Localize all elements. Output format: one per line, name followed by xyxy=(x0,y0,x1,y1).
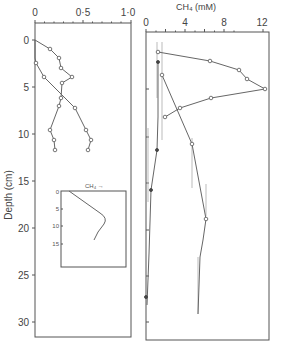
left-x-tick-label: 0·5 xyxy=(76,7,91,18)
left-series-b-line xyxy=(35,40,91,150)
y-tick-label: 5 xyxy=(23,82,29,93)
inset-y-tick-label: 5 xyxy=(56,206,60,212)
right-series-upper-markers xyxy=(156,50,267,119)
right-x-tick-label: 12 xyxy=(256,17,268,28)
y-tick-label: 30 xyxy=(18,317,30,328)
right-x-tick-label: 0 xyxy=(143,17,149,28)
y-tick-label: 0 xyxy=(23,35,29,46)
left-series-a-line xyxy=(35,40,72,150)
inset-y-tick-label: 10 xyxy=(52,223,59,229)
right-series-lower-line xyxy=(162,75,206,314)
inset-schematic: CH₄ → 0 5 10 15 xyxy=(52,183,126,267)
right-x-tick-label: 8 xyxy=(221,17,227,28)
ch4-depth-profile-chart: 0 0·5 1·0 0 5 10 15 20 25 30 Depth (cm) xyxy=(0,0,282,347)
y-tick-label: 20 xyxy=(18,223,30,234)
y-axis-label: Depth (cm) xyxy=(3,170,14,219)
y-tick-label: 25 xyxy=(18,270,30,281)
left-panel-frame xyxy=(35,23,131,337)
error-bars xyxy=(148,42,206,314)
inset-y-tick-label: 15 xyxy=(52,241,59,247)
right-panel-title: CH₄ (mM) xyxy=(176,2,216,12)
inset-curve xyxy=(69,191,105,240)
y-tick-label: 15 xyxy=(18,176,30,187)
left-x-tick-label: 1·0 xyxy=(121,7,136,18)
inset-frame xyxy=(61,191,126,267)
inset-ch4-label: CH₄ → xyxy=(85,183,104,189)
y-tick-label: 10 xyxy=(18,129,30,140)
inset-y-tick-label: 0 xyxy=(56,189,60,195)
right-x-tick-label: 4 xyxy=(182,17,188,28)
left-x-tick-label: 0 xyxy=(32,7,38,18)
right-panel: CH₄ (mM) 0 4 8 12 xyxy=(143,2,269,340)
right-panel-frame xyxy=(146,32,269,340)
left-panel: 0 0·5 1·0 0 5 10 15 20 25 30 Depth (cm) xyxy=(3,7,136,337)
right-series-lower-markers xyxy=(160,73,208,221)
